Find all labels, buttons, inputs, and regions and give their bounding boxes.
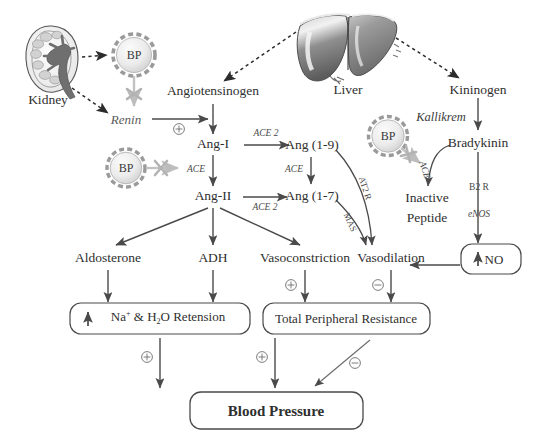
box-label-tpr: Total Peripheral Resistance xyxy=(275,312,417,325)
arrow-ang2-to-aldosterone xyxy=(116,208,208,245)
bp-label-renin: BP xyxy=(127,49,142,61)
node-vasodilation: Vasodilation xyxy=(357,251,425,265)
node-aldosterone: Aldosterone xyxy=(75,251,141,265)
inhibition-bp-ace xyxy=(146,161,178,175)
node-ang-1: Ang-I xyxy=(197,137,229,151)
node-inactive-peptide-line2: Peptide xyxy=(407,211,448,225)
enzyme-ace2-ang2-to-ang17: ACE 2 xyxy=(252,203,277,213)
box-label-no: NO xyxy=(485,253,504,266)
node-ang-1-9: Ang (1-9) xyxy=(285,138,339,152)
retention-text-mid: & H xyxy=(131,309,157,324)
bp-label-bradykinin: BP xyxy=(381,130,396,142)
enzyme-ace2-ang1-to-ang19: ACE 2 xyxy=(253,129,278,139)
diagram-vector-layer xyxy=(0,0,546,442)
sign-minus-vasodilation xyxy=(373,280,384,291)
sign-plus-vasoconstriction xyxy=(286,280,297,291)
retention-text-post: O Retension xyxy=(161,309,226,324)
node-ang-1-7: Ang (1-7) xyxy=(285,189,339,203)
bp-label-ace: BP xyxy=(119,162,134,174)
pathway-diagram: Kidney Liver BP BP BP Renin Angiotensino… xyxy=(0,0,546,442)
organ-label-kidney: Kidney xyxy=(28,93,68,107)
dashed-arrow-liver-to-kininogen xyxy=(396,38,459,78)
box-label-blood-pressure: Blood Pressure xyxy=(228,404,325,419)
enzyme-kallikrein: Kallikrem xyxy=(416,111,466,124)
sign-plus-tpr xyxy=(257,352,268,363)
dashed-arrow-kidney-to-bp xyxy=(82,55,107,57)
arrow-tpr-inhibit-bp xyxy=(315,340,370,386)
dashed-arrow-kidney-to-renin xyxy=(72,88,108,113)
liver-illustration xyxy=(297,14,401,84)
curve-bradykinin-to-inactive-peptide xyxy=(428,145,450,186)
node-adh: ADH xyxy=(198,251,227,265)
node-ang-2: Ang-II xyxy=(195,189,232,203)
kidney-illustration xyxy=(26,26,78,99)
sign-minus-tpr xyxy=(350,358,361,369)
dashed-arrow-liver-to-angiotensinogen xyxy=(224,32,296,81)
arrow-ang2-to-vasoconstriction xyxy=(220,208,300,245)
box-label-retention: Na+ & H2O Retension xyxy=(111,310,225,327)
node-inactive-peptide-line1: Inactive xyxy=(405,191,448,205)
enzyme-ace-ang19-to-ang17: ACE xyxy=(285,165,303,175)
node-angiotensinogen: Angiotensinogen xyxy=(167,84,259,98)
receptor-b2r: B2 R xyxy=(469,183,489,193)
sign-plus-renin xyxy=(174,124,185,135)
sign-plus-retention xyxy=(142,352,153,363)
organ-label-liver: Liver xyxy=(333,83,362,97)
inhibition-bp-renin xyxy=(127,76,141,106)
enzyme-ace-ang1-to-ang2: ACE xyxy=(187,165,205,175)
node-renin: Renin xyxy=(111,113,141,126)
retention-text-pre: Na xyxy=(111,309,126,324)
enzyme-enos: eNOS xyxy=(468,210,490,220)
node-kininogen: Kininogen xyxy=(450,83,507,97)
node-bradykinin: Bradykinin xyxy=(448,136,509,150)
node-vasoconstriction: Vasoconstriction xyxy=(260,251,350,265)
